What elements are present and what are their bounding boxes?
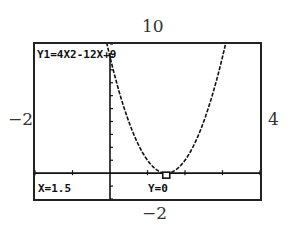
ymin-label: −2 xyxy=(142,203,167,223)
ymax-label: 10 xyxy=(142,16,164,36)
xmin-label: −2 xyxy=(8,109,33,129)
y-readout: Y=0 xyxy=(148,182,168,195)
calculator-screen: Y1=4X2-12X+9 X=1.5 Y=0 xyxy=(33,42,262,201)
trace-cursor xyxy=(163,172,170,178)
xmax-label: 4 xyxy=(268,109,279,129)
equation-text: Y1=4X2-12X+9 xyxy=(37,48,116,61)
graph-plot xyxy=(35,44,260,199)
function-curve xyxy=(104,44,228,173)
x-readout: X=1.5 xyxy=(38,182,71,195)
